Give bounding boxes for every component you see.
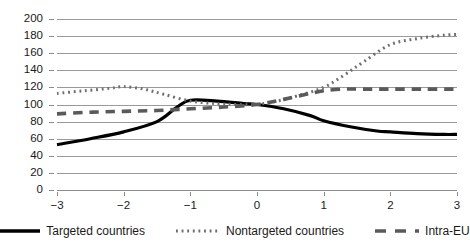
y-tick-label: 100 <box>24 99 43 111</box>
y-tick-label: 140 <box>24 65 43 77</box>
legend-item-targeted-countries[interactable]: Targeted countries <box>0 225 145 238</box>
y-axis: 020406080100120140160180200 <box>0 0 57 249</box>
y-tick-mark <box>49 53 54 54</box>
gridline-0 <box>57 190 457 191</box>
y-tick-label: 120 <box>24 82 43 94</box>
y-tick-label: 20 <box>30 167 43 179</box>
legend-label: Nontargeted countries <box>226 225 344 238</box>
plot-area <box>57 19 457 190</box>
legend-label: Intra-EU <box>425 225 470 238</box>
y-tick-label: 80 <box>30 116 43 128</box>
y-tick-mark <box>49 190 54 191</box>
y-tick-label: 200 <box>24 13 43 25</box>
y-tick-label: 180 <box>24 30 43 42</box>
x-tick-mark <box>390 192 391 196</box>
x-tick-label: −3 <box>50 199 63 211</box>
y-tick-label: 160 <box>24 47 43 59</box>
x-tick-label: −2 <box>117 199 130 211</box>
y-tick-mark <box>49 156 54 157</box>
y-tick-label: 40 <box>30 150 43 162</box>
series-line-nontargeted-countries <box>57 34 457 104</box>
x-tick-label: 1 <box>320 199 326 211</box>
series-line-targeted-countries <box>57 100 457 145</box>
x-tick-label: 0 <box>254 199 260 211</box>
y-tick-mark <box>49 87 54 88</box>
x-tick-label: 3 <box>454 199 460 211</box>
legend-item-intra-eu[interactable]: Intra-EU <box>374 225 470 238</box>
y-tick-mark <box>49 19 54 20</box>
y-tick-mark <box>49 139 54 140</box>
x-tick-mark <box>324 192 325 196</box>
legend-item-nontargeted-countries[interactable]: Nontargeted countries <box>175 225 344 238</box>
y-tick-mark <box>49 105 54 106</box>
x-tick-mark <box>124 192 125 196</box>
y-tick-mark <box>49 36 54 37</box>
legend-swatch-dotted <box>175 226 221 236</box>
legend-swatch-solid <box>0 226 41 236</box>
legend-swatch-dashed <box>374 226 420 236</box>
series-layer <box>57 19 457 190</box>
x-tick-mark <box>190 192 191 196</box>
x-axis: −3−2−10123 <box>57 192 457 216</box>
x-tick-mark <box>257 192 258 196</box>
legend-label: Targeted countries <box>46 225 145 238</box>
x-tick-label: 2 <box>387 199 393 211</box>
y-tick-mark <box>49 173 54 174</box>
x-tick-mark <box>457 192 458 196</box>
y-tick-mark <box>49 122 54 123</box>
x-tick-label: −1 <box>184 199 197 211</box>
series-line-intra-eu <box>57 89 457 114</box>
y-tick-mark <box>49 70 54 71</box>
y-tick-label: 0 <box>37 184 43 196</box>
y-tick-label: 60 <box>30 133 43 145</box>
chart-legend: Targeted countriesNontargeted countriesI… <box>0 219 465 243</box>
x-tick-mark <box>57 192 58 196</box>
